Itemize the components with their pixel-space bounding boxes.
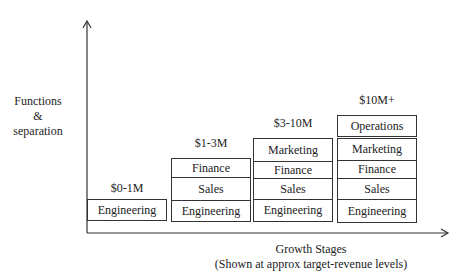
function-cell: Marketing bbox=[338, 139, 416, 161]
function-cell: Engineering bbox=[172, 201, 250, 221]
function-cell: Finance bbox=[338, 161, 416, 179]
function-cell: Finance bbox=[172, 159, 250, 178]
function-cell: Finance bbox=[254, 162, 332, 179]
stage-stack: Engineering bbox=[87, 199, 167, 221]
y-axis-label: Functions & separation bbox=[0, 94, 76, 139]
function-cell: Marketing bbox=[254, 139, 332, 162]
y-label-line: separation bbox=[0, 124, 76, 139]
stage-stack: Marketing Finance Sales Engineering bbox=[253, 138, 333, 222]
function-cell: Engineering bbox=[254, 200, 332, 221]
stage-revenue-label: $10M+ bbox=[337, 93, 417, 108]
stage-revenue-label: $1-3M bbox=[171, 136, 251, 151]
stage-revenue-label: $3-10M bbox=[253, 116, 333, 131]
function-cell: Engineering bbox=[88, 200, 166, 220]
function-cell: Operations bbox=[338, 116, 416, 136]
y-label-line: & bbox=[0, 109, 76, 124]
y-label-line: Functions bbox=[0, 94, 76, 109]
stage-stack: Marketing Finance Sales Engineering bbox=[337, 138, 417, 223]
x-axis-subtitle: (Shown at approx target-revenue levels) bbox=[150, 257, 472, 272]
function-cell: Sales bbox=[254, 179, 332, 200]
x-axis-label: Growth Stages (Shown at approx target-re… bbox=[150, 242, 472, 272]
x-axis-title: Growth Stages bbox=[150, 242, 472, 257]
stage-stack: Finance Sales Engineering bbox=[171, 158, 251, 222]
stage-revenue-label: $0-1M bbox=[87, 181, 167, 196]
function-cell: Sales bbox=[172, 178, 250, 201]
separate-function-box: Operations bbox=[337, 115, 417, 137]
function-cell: Engineering bbox=[338, 200, 416, 222]
function-cell: Sales bbox=[338, 179, 416, 200]
